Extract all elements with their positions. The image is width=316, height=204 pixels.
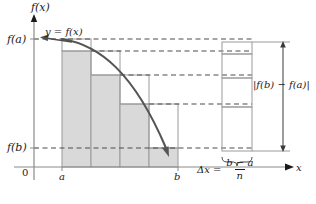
- b-tick-label: b: [174, 172, 180, 182]
- stack-segment-2: [222, 54, 252, 78]
- a-tick-label: a: [59, 172, 65, 182]
- riemann-bar-1: [62, 51, 91, 167]
- curve-equation-label: y = f(x): [45, 27, 83, 37]
- riemann-bar-2: [91, 75, 120, 167]
- stack-segment-1: [222, 42, 252, 54]
- total-change-measure: [252, 41, 290, 152]
- delta-x-symbol: Δx: [197, 164, 210, 175]
- f-of-a-label: f(a): [7, 34, 26, 45]
- x-axis-arrowhead: [285, 164, 294, 171]
- total-change-label: |f(b) − f(a)|: [253, 80, 310, 90]
- step-outline-rect-2: [91, 51, 120, 75]
- delta-x-formula: Δx = b − a n: [197, 158, 255, 181]
- fraction-numerator: b − a: [224, 158, 255, 169]
- riemann-bar-4: [149, 148, 178, 167]
- fraction-denominator: n: [235, 169, 245, 181]
- stacked-column: [222, 42, 252, 151]
- origin-label: 0: [22, 168, 28, 178]
- y-axis-arrowhead: [31, 14, 37, 22]
- riemann-sum-figure: f(x) f(a) f(b) 0 a b x y = f(x) |f(b) − …: [0, 0, 316, 204]
- stack-segment-3: [222, 78, 252, 107]
- stack-segment-4: [222, 107, 252, 151]
- y-axis-label: f(x): [31, 2, 50, 13]
- delta-x-fraction: b − a n: [224, 158, 255, 181]
- x-axis-label: x: [296, 163, 302, 173]
- f-of-b-label: f(b): [7, 142, 27, 153]
- equals-sign: =: [213, 164, 221, 175]
- riemann-bar-3: [120, 104, 149, 167]
